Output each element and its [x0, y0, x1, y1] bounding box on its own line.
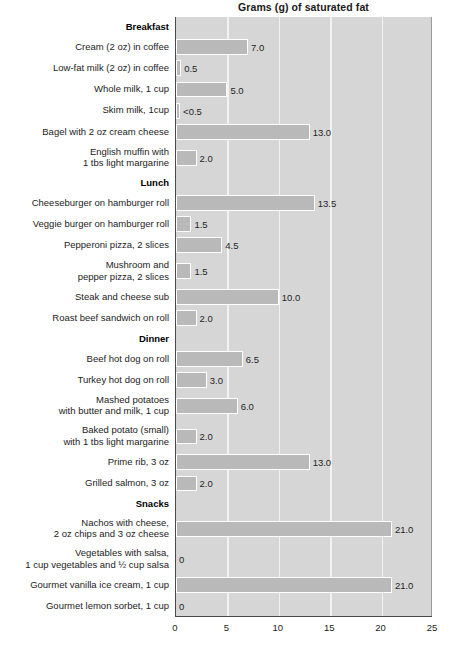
x-tick-25: 25 — [417, 622, 447, 633]
saturated-fat-bar-chart: Grams (g) of saturated fat 7.00.55.0<0.5… — [0, 0, 451, 661]
x-tick-15: 15 — [314, 622, 344, 633]
x-axis: 0510152025 — [0, 0, 451, 661]
x-tick-20: 20 — [366, 622, 396, 633]
x-tick-10: 10 — [263, 622, 293, 633]
x-tick-0: 0 — [160, 622, 190, 633]
x-tick-5: 5 — [211, 622, 241, 633]
